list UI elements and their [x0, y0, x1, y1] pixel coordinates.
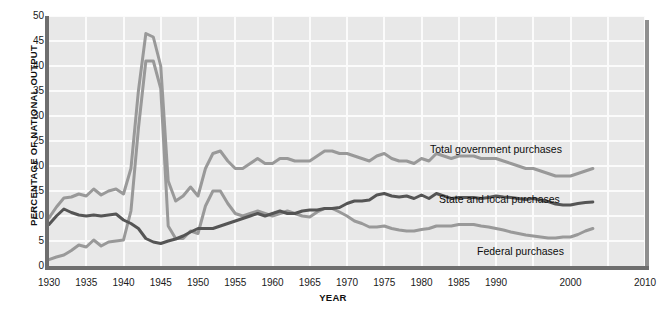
chart-figure: PERCENTAGE OF NATIONAL OUTPUT 0510152025… — [0, 0, 666, 315]
x-axis-title: YEAR — [0, 292, 666, 303]
series-label: State and local purchases — [439, 193, 560, 205]
series-label: Federal purchases — [477, 245, 564, 257]
x-tick-label: 2010 — [615, 277, 666, 288]
series-label: Total government purchases — [430, 143, 562, 155]
x-axis-ticks: 1930193519401945195019551960196519701975… — [0, 0, 666, 315]
x-tick-label: 2000 — [541, 277, 601, 288]
x-tick-label: 1990 — [466, 277, 526, 288]
